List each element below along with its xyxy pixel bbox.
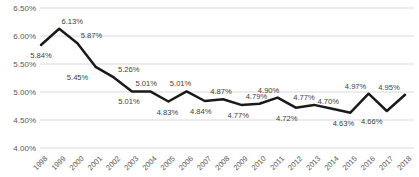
x-axis-year-label: 2001 bbox=[86, 154, 104, 172]
x-axis-year-label: 1999 bbox=[49, 154, 67, 172]
x-axis-year-label: 2012 bbox=[286, 154, 304, 172]
series-line bbox=[41, 29, 405, 113]
x-axis-year-label: 2000 bbox=[68, 154, 86, 172]
data-label: 4.97% bbox=[345, 82, 367, 91]
y-axis-tick-label: 5.00% bbox=[13, 88, 36, 97]
data-label: 5.01% bbox=[118, 97, 140, 106]
x-axis-year-label: 2006 bbox=[177, 154, 195, 172]
y-axis-tick-label: 5.50% bbox=[13, 60, 36, 69]
x-axis-year-label: 2018 bbox=[395, 154, 413, 172]
x-axis-year-label: 2005 bbox=[159, 154, 177, 172]
chart-canvas: 6.50%6.00%5.50%5.00%4.50%4.00%1998199920… bbox=[0, 0, 419, 177]
x-axis-year-label: 2011 bbox=[268, 154, 286, 172]
data-label: 4.72% bbox=[276, 114, 298, 123]
x-axis-year-label: 2016 bbox=[359, 154, 377, 172]
y-axis-tick-label: 4.50% bbox=[13, 116, 36, 125]
data-label: 4.70% bbox=[317, 97, 339, 106]
data-label: 4.83% bbox=[157, 108, 179, 117]
line-chart: 6.50%6.00%5.50%5.00%4.50%4.00%1998199920… bbox=[0, 0, 419, 177]
data-label: 5.01% bbox=[135, 79, 157, 88]
x-axis-year-label: 2014 bbox=[322, 154, 340, 172]
x-axis-year-label: 2013 bbox=[304, 154, 322, 172]
x-axis-year-label: 2003 bbox=[122, 154, 140, 172]
data-label: 4.66% bbox=[361, 117, 383, 126]
x-axis-year-label: 2009 bbox=[231, 154, 249, 172]
x-axis-year-label: 2007 bbox=[195, 154, 213, 172]
data-label: 4.77% bbox=[227, 111, 249, 120]
data-label: 4.95% bbox=[378, 83, 400, 92]
x-axis-year-label: 1998 bbox=[31, 154, 49, 172]
data-label: 5.84% bbox=[30, 51, 52, 60]
x-axis-year-label: 2010 bbox=[250, 154, 268, 172]
data-label: 5.26% bbox=[118, 65, 140, 74]
x-axis-year-label: 2017 bbox=[377, 154, 395, 172]
data-label: 4.63% bbox=[333, 119, 355, 128]
x-axis-year-label: 2002 bbox=[104, 154, 122, 172]
data-label: 4.87% bbox=[210, 87, 232, 96]
data-label: 5.87% bbox=[81, 31, 103, 40]
y-axis-tick-label: 6.50% bbox=[13, 4, 36, 13]
data-label: 4.77% bbox=[293, 93, 315, 102]
data-label: 4.84% bbox=[190, 107, 212, 116]
data-label: 5.45% bbox=[67, 73, 89, 82]
x-axis-year-label: 2008 bbox=[213, 154, 231, 172]
x-axis-year-label: 2004 bbox=[140, 154, 158, 172]
data-label: 6.13% bbox=[61, 17, 83, 26]
data-label: 4.90% bbox=[258, 86, 280, 95]
y-axis-tick-label: 6.00% bbox=[13, 32, 36, 41]
y-axis-tick-label: 4.00% bbox=[13, 144, 36, 153]
data-label: 5.01% bbox=[170, 79, 192, 88]
x-axis-year-label: 2015 bbox=[341, 154, 359, 172]
